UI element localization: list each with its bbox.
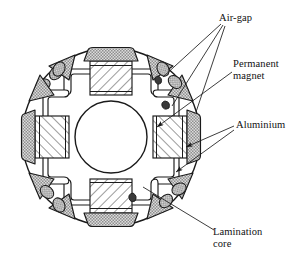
label-aluminium: Aluminium — [236, 119, 285, 131]
label-permanent-magnet-line2: magnet — [233, 70, 265, 81]
leader-airgap-1 — [163, 24, 221, 77]
label-lamination-core: Laminationcore — [213, 226, 262, 249]
label-permanent-magnet: Permanentmagnet — [233, 58, 279, 81]
leader-airgap-3 — [196, 26, 225, 112]
label-lamination-core-line2: core — [213, 238, 231, 249]
shaft-hole — [75, 101, 147, 173]
label-lamination-core-line1: Lamination — [213, 226, 262, 237]
leader-airgap-2 — [172, 25, 223, 106]
label-permanent-magnet-line1: Permanent — [233, 58, 279, 69]
label-air-gap: Air-gap — [219, 12, 252, 24]
